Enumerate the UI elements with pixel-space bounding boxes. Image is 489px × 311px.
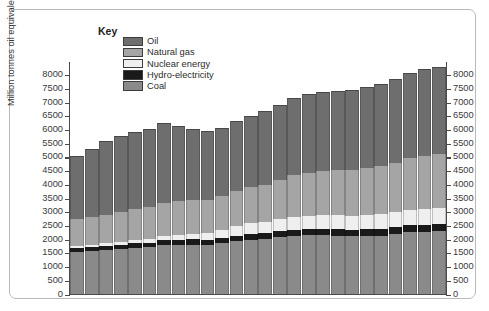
bar-segment-hydro-electricity <box>418 225 432 232</box>
legend-item: Natural gas <box>123 47 214 58</box>
y-tick-mark-right <box>446 103 451 104</box>
y-tick-mark-right <box>446 157 451 158</box>
bar-segment-oil <box>258 111 272 185</box>
y-tick-mark-left <box>65 185 70 186</box>
bar-segment-hydro-electricity <box>389 227 403 234</box>
bar-segment-natural-gas <box>360 168 374 215</box>
bar-group <box>70 62 446 294</box>
y-axis-label-left: 6000 <box>42 124 63 134</box>
bar-segment-oil <box>157 123 171 202</box>
bar-85 <box>244 62 258 294</box>
legend-label: Natural gas <box>147 47 195 57</box>
y-axis-label-right: 0 <box>453 289 458 299</box>
bar-96 <box>403 62 417 294</box>
y-tick-mark-right <box>446 75 451 76</box>
bar-segment-coal <box>114 249 128 294</box>
bar-segment-oil <box>389 79 403 162</box>
bar-segment-coal <box>316 235 330 294</box>
bar-76 <box>114 62 128 294</box>
y-axis-label-left: 4500 <box>42 165 63 175</box>
bar-segment-oil <box>331 91 345 170</box>
y-tick-mark-left <box>65 199 70 200</box>
legend-label: Oil <box>147 36 158 46</box>
y-tick-mark-right <box>446 267 451 268</box>
y-tick-mark-left <box>65 157 70 158</box>
bar-segment-natural-gas <box>273 180 287 219</box>
bar-segment-natural-gas <box>157 203 171 236</box>
bar-segment-coal <box>418 232 432 294</box>
bar-segment-coal <box>389 234 403 294</box>
bar-segment-natural-gas <box>186 200 200 233</box>
bar-segment-nuclear-energy <box>403 210 417 226</box>
bar-segment-natural-gas <box>215 196 229 229</box>
bar-segment-coal <box>244 240 258 294</box>
bar-87 <box>273 62 287 294</box>
bar-segment-coal <box>403 232 417 294</box>
bar-segment-nuclear-energy <box>316 215 330 228</box>
y-axis-label-left: 7500 <box>42 83 63 93</box>
bar-segment-natural-gas <box>302 173 316 216</box>
bar-segment-nuclear-energy <box>201 233 215 240</box>
bar-segment-oil <box>128 132 142 209</box>
y-axis-label-left: 3500 <box>42 193 63 203</box>
y-axis-label-left: 6500 <box>42 110 63 120</box>
bar-segment-coal <box>85 251 99 294</box>
bar-segment-coal <box>99 250 113 294</box>
legend-title: Key <box>98 25 117 37</box>
bar-segment-oil <box>316 92 330 171</box>
bar-segment-coal <box>215 243 229 294</box>
y-tick-mark-right <box>446 240 451 241</box>
bar-segment-natural-gas <box>172 201 186 235</box>
bar-89 <box>302 62 316 294</box>
bar-segment-natural-gas <box>418 156 432 209</box>
y-tick-mark-right <box>446 212 451 213</box>
bar-83 <box>215 62 229 294</box>
y-axis-label-right: 1000 <box>453 261 474 271</box>
bar-86 <box>258 62 272 294</box>
bar-segment-coal <box>374 236 388 294</box>
y-tick-mark-left <box>65 144 70 145</box>
bar-segment-coal <box>273 237 287 294</box>
y-tick-mark-left <box>65 281 70 282</box>
y-axis-label-right: 7500 <box>453 83 474 93</box>
y-axis-label-right: 5500 <box>453 138 474 148</box>
bar-segment-oil <box>360 87 374 168</box>
y-tick-mark-right <box>446 171 451 172</box>
y-axis-label-right: 2500 <box>453 220 474 230</box>
bar-81 <box>186 62 200 294</box>
y-axis-label-left: 1000 <box>42 261 63 271</box>
bar-segment-oil <box>230 121 244 191</box>
bar-segment-natural-gas <box>244 187 258 223</box>
bar-segment-coal <box>201 245 215 294</box>
bar-73 <box>70 62 84 294</box>
y-tick-mark-left <box>65 212 70 213</box>
bar-segment-oil <box>374 84 388 166</box>
bar-segment-coal <box>143 247 157 294</box>
y-tick-mark-right <box>446 199 451 200</box>
y-axis-label-right: 4500 <box>453 165 474 175</box>
bar-segment-hydro-electricity <box>345 230 359 237</box>
y-tick-mark-right <box>446 116 451 117</box>
y-axis-label-right: 6500 <box>453 110 474 120</box>
bar-segment-natural-gas <box>99 215 113 243</box>
y-axis-label-right: 500 <box>453 275 469 285</box>
y-tick-mark-right <box>446 253 451 254</box>
bar-segment-nuclear-energy <box>287 217 301 230</box>
bar-75 <box>99 62 113 294</box>
bar-92 <box>345 62 359 294</box>
bar-segment-nuclear-energy <box>215 230 229 238</box>
bar-segment-coal <box>432 231 446 294</box>
bar-82 <box>201 62 215 294</box>
y-axis-label-left: 4000 <box>42 179 63 189</box>
bar-segment-natural-gas <box>114 212 128 242</box>
bar-segment-coal <box>360 236 374 294</box>
y-axis-title: Million tonnes oil equivalent <box>6 0 16 106</box>
y-tick-mark-left <box>65 226 70 227</box>
bar-segment-hydro-electricity <box>374 229 388 236</box>
y-axis-label-right: 3000 <box>453 206 474 216</box>
bar-segment-nuclear-energy <box>258 222 272 233</box>
y-axis-label-left: 5000 <box>42 151 63 161</box>
bar-segment-oil <box>186 129 200 200</box>
bar-segment-coal <box>345 236 359 294</box>
bar-97 <box>418 62 432 294</box>
